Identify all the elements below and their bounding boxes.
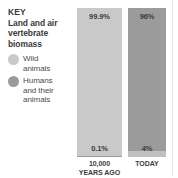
bar-caption-line2: YEARS AGO xyxy=(69,169,130,178)
bar-caption-line1: TODAY xyxy=(135,160,158,167)
bar-today: 96% 4% xyxy=(128,8,166,157)
bar-group-10000-years-ago: 99.9% 0.1% 10,000 YEARS AGO xyxy=(77,8,122,177)
legend-label-line2: and their xyxy=(23,86,54,95)
bar-caption-line1: 10,000 xyxy=(89,160,110,167)
legend-list: Wild animals Humans and their animals xyxy=(8,54,74,105)
legend-label-line1: Humans xyxy=(23,76,53,85)
legend-label-humans-and-their-animals: Humans and their animals xyxy=(23,76,54,105)
biomass-infographic: KEY Land and air vertebrate biomass Wild… xyxy=(0,0,178,177)
bar-value-top-10000-years-ago: 99.9% xyxy=(77,12,122,21)
bar-segment-wild-animals xyxy=(77,8,122,157)
bar-caption-today: TODAY xyxy=(120,160,174,169)
right-edge-rule xyxy=(172,0,173,177)
legend-label-line3: animals xyxy=(23,95,50,104)
legend-item-wild-animals: Wild animals xyxy=(8,54,74,73)
legend-label-wild-animals: Wild animals xyxy=(23,54,50,73)
key-title: KEY xyxy=(8,7,74,18)
humans-animals-dot-icon xyxy=(8,76,19,87)
wild-animals-dot-icon xyxy=(8,54,19,65)
legend-label-line1: Wild xyxy=(23,54,38,63)
key-block: KEY Land and air vertebrate biomass Wild… xyxy=(8,7,74,108)
bar-segment-humans-animals xyxy=(77,156,122,157)
bar-value-bottom-10000-years-ago: 0.1% xyxy=(77,144,122,153)
legend-label-line2: animals xyxy=(23,64,50,73)
legend-item-humans-and-their-animals: Humans and their animals xyxy=(8,76,74,105)
bar-value-bottom-today: 4% xyxy=(128,144,166,153)
bar-value-top-today: 96% xyxy=(128,12,166,21)
bar-10000-years-ago: 99.9% 0.1% xyxy=(77,8,122,157)
bar-segment-humans-animals xyxy=(128,8,166,151)
key-subtitle: Land and air vertebrate biomass xyxy=(8,18,74,50)
bar-group-today: 96% 4% TODAY xyxy=(128,8,166,177)
